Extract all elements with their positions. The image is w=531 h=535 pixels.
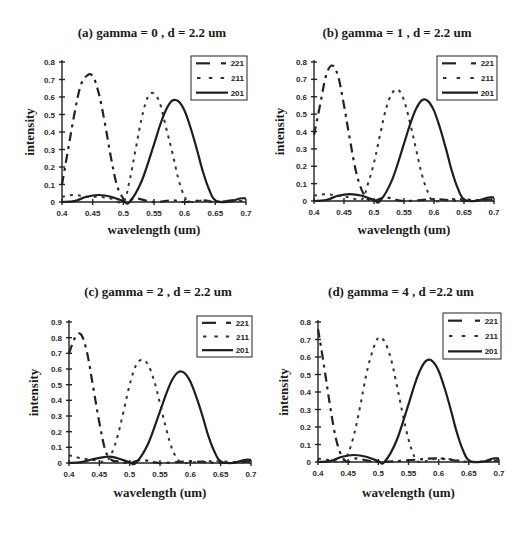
x-tick-label: 0.7 (245, 470, 257, 479)
y-tick-label: 0.3 (51, 412, 63, 421)
y-tick-label: 0 (307, 458, 312, 467)
y-tick-label: 0.8 (300, 318, 312, 327)
y-tick-label: 0.4 (44, 128, 56, 137)
legend-label-221: 221 (485, 317, 499, 326)
legend-label-221: 221 (236, 319, 250, 328)
y-tick-label: 0 (303, 197, 308, 206)
chart-panel-a: (a) gamma = 0 , d = 2.2 um00.10.20.30.40… (22, 25, 252, 237)
x-tick-label: 0.4 (312, 469, 324, 478)
y-tick-label: 0.3 (44, 146, 56, 155)
legend-label-201: 201 (236, 346, 250, 355)
x-tick-label: 0.5 (373, 469, 385, 478)
y-axis-label: intensity (26, 368, 41, 416)
x-tick-label: 0.5 (118, 209, 130, 218)
y-tick-label: 0.6 (51, 365, 63, 374)
series-201-line (62, 100, 246, 204)
chart-title: (a) gamma = 0 , d = 2.2 um (78, 25, 227, 40)
x-tick-label: 0.4 (63, 470, 75, 479)
x-tick-label: 0.7 (488, 208, 500, 217)
y-tick-label: 0.2 (44, 163, 56, 172)
chart-title: (d) gamma = 4 , d =2.2 um (328, 284, 474, 299)
figure: (a) gamma = 0 , d = 2.2 um00.10.20.30.40… (0, 0, 531, 535)
y-tick-label: 0.7 (51, 349, 63, 358)
x-tick-label: 0.55 (152, 470, 168, 479)
y-tick-label: 0.9 (51, 318, 63, 327)
x-tick-label: 0.6 (179, 209, 191, 218)
y-tick-label: 0.1 (51, 443, 63, 452)
y-axis-label: intensity (272, 107, 287, 155)
x-tick-label: 0.7 (493, 469, 505, 478)
y-tick-label: 0.5 (296, 110, 308, 119)
y-tick-label: 0.8 (51, 334, 63, 343)
y-tick-label: 0 (58, 459, 63, 468)
x-tick-label: 0.65 (208, 209, 224, 218)
chart-canvas: (a) gamma = 0 , d = 2.2 um00.10.20.30.40… (0, 0, 531, 535)
x-tick-label: 0.55 (401, 469, 417, 478)
y-tick-label: 0.8 (44, 58, 56, 67)
chart-title: (c) gamma = 2 , d = 2.2 um (84, 284, 232, 299)
series-211-line (62, 93, 246, 203)
y-tick-label: 0.7 (300, 336, 312, 345)
x-tick-label: 0.45 (336, 208, 352, 217)
x-tick-label: 0.55 (146, 209, 162, 218)
x-tick-label: 0.6 (185, 470, 197, 479)
chart-panel-d: (d) gamma = 4 , d =2.2 um00.10.20.30.40.… (276, 284, 505, 500)
legend-label-211: 211 (485, 332, 498, 341)
x-tick-label: 0.45 (85, 209, 101, 218)
legend: 221211201 (197, 316, 252, 357)
legend: 221211201 (443, 313, 501, 359)
legend: 221211201 (191, 56, 247, 100)
x-tick-label: 0.65 (461, 469, 477, 478)
x-tick-label: 0.6 (428, 208, 440, 217)
y-tick-label: 0 (51, 198, 56, 207)
x-tick-label: 0.7 (240, 209, 252, 218)
y-tick-label: 0.3 (296, 145, 308, 154)
x-tick-label: 0.65 (456, 208, 472, 217)
series-201-line (69, 371, 251, 464)
legend-label-221: 221 (231, 59, 245, 68)
legend-label-201: 201 (481, 89, 495, 98)
y-tick-label: 0.8 (296, 58, 308, 67)
y-tick-label: 0.2 (51, 428, 63, 437)
x-tick-label: 0.6 (433, 469, 445, 478)
x-tick-label: 0.5 (124, 470, 136, 479)
y-tick-label: 0.1 (296, 180, 308, 189)
y-tick-label: 0.4 (51, 396, 63, 405)
y-tick-label: 0.2 (296, 162, 308, 171)
x-tick-label: 0.45 (92, 470, 108, 479)
y-tick-label: 0.1 (44, 181, 56, 190)
x-tick-label: 0.65 (213, 470, 229, 479)
x-tick-label: 0.4 (56, 209, 68, 218)
y-tick-label: 0.1 (300, 441, 312, 450)
y-tick-label: 0.7 (44, 76, 56, 85)
legend: 221211201 (437, 56, 497, 100)
y-tick-label: 0.5 (300, 371, 312, 380)
y-axis-label: intensity (276, 368, 291, 416)
y-tick-label: 0.6 (300, 353, 312, 362)
legend-label-201: 201 (231, 89, 245, 98)
x-tick-label: 0.45 (340, 469, 356, 478)
series-201-line (314, 99, 494, 202)
legend-label-221: 221 (481, 59, 495, 68)
y-tick-label: 0.6 (44, 93, 56, 102)
x-axis-label: wavelength (um) (108, 222, 201, 237)
y-tick-label: 0.6 (296, 93, 308, 102)
legend-label-211: 211 (481, 74, 494, 83)
chart-title: (b) gamma = 1 , d = 2.2 um (322, 25, 471, 40)
y-tick-label: 0.5 (51, 381, 63, 390)
y-tick-label: 0.7 (296, 75, 308, 84)
chart-panel-c: (c) gamma = 2 , d = 2.2 um00.10.20.30.40… (26, 284, 257, 500)
x-axis-label: wavelength (um) (114, 485, 207, 500)
x-axis-label: wavelength (um) (362, 485, 455, 500)
y-tick-label: 0.4 (300, 388, 312, 397)
legend-label-201: 201 (485, 347, 499, 356)
series-201-line (318, 360, 499, 464)
y-tick-label: 0.5 (44, 111, 56, 120)
x-tick-label: 0.55 (396, 208, 412, 217)
x-tick-label: 0.5 (368, 208, 380, 217)
y-tick-label: 0.2 (300, 423, 312, 432)
legend-label-211: 211 (231, 74, 244, 83)
y-tick-label: 0.3 (300, 406, 312, 415)
x-axis-label: wavelength (um) (358, 222, 451, 237)
legend-label-211: 211 (236, 333, 249, 342)
